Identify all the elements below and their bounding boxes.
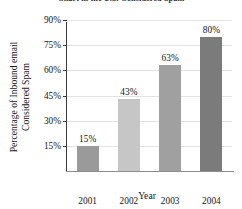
y-axis-title-line-1: Percentage of Inbound email — [8, 12, 20, 182]
y-axis-tick — [63, 96, 67, 97]
y-axis-tick — [63, 146, 67, 147]
plot-area: 15%30%45%60%75%90%15%200143%200263%20038… — [67, 20, 232, 171]
y-axis-tick — [63, 121, 67, 122]
bar[interactable]: 43% — [118, 99, 140, 171]
bar[interactable]: 80% — [200, 37, 222, 171]
y-axis-tick-label: 75% — [44, 40, 61, 50]
bar-value-label: 15% — [79, 134, 96, 144]
gridline — [67, 20, 232, 21]
chart-title: Chart in the U.S. Considered Spam — [0, 0, 242, 3]
bar[interactable]: 15% — [77, 146, 99, 171]
y-axis-tick — [63, 70, 67, 71]
y-axis-tick-label: 60% — [44, 65, 61, 75]
y-axis-tick-label: 90% — [44, 15, 61, 25]
y-axis-tick — [63, 20, 67, 21]
y-axis-tick — [63, 45, 67, 46]
bar[interactable]: 63% — [159, 65, 181, 171]
bar-value-label: 43% — [120, 87, 137, 97]
bar-value-label: 63% — [162, 53, 179, 63]
y-axis-tick-label: 15% — [44, 141, 61, 151]
y-axis-title-line-2: Considered Spam — [20, 12, 32, 182]
y-axis-tick-label: 30% — [44, 116, 61, 126]
bar-value-label: 80% — [203, 25, 220, 35]
y-axis-tick-label: 45% — [44, 91, 61, 101]
x-axis-line — [66, 171, 234, 172]
x-axis-title: Year — [67, 190, 227, 201]
y-axis-title: Percentage of Inbound email Considered S… — [8, 12, 32, 182]
bar-chart-figure: Chart in the U.S. Considered Spam Percen… — [0, 0, 242, 209]
